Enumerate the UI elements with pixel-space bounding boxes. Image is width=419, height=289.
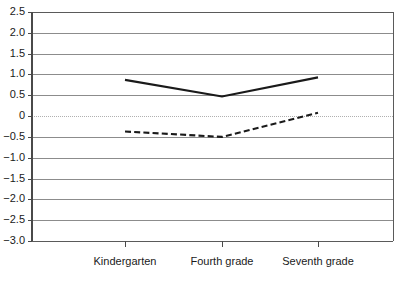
y-tick-label: 0.5 [10, 88, 25, 100]
y-tick-label: −0.5 [3, 130, 25, 142]
chart-container: 2.52.01.51.00.50−0.5−1.0−1.5−2.0−2.5−3.0… [0, 0, 419, 289]
y-tick-label: −2.5 [3, 213, 25, 225]
y-tick-label: 2.5 [10, 5, 25, 17]
y-tick-label: 2.0 [10, 26, 25, 38]
y-tick-label: 1.0 [10, 67, 25, 79]
x-tick-label-1: Fourth grade [191, 255, 254, 267]
y-tick-label: 1.5 [10, 47, 25, 59]
chart-background [0, 0, 419, 289]
line-chart: 2.52.01.51.00.50−0.5−1.0−1.5−2.0−2.5−3.0… [0, 0, 419, 289]
y-tick-label: −3.0 [3, 234, 25, 246]
x-tick-labels: KindergartenFourth gradeSeventh grade [94, 255, 354, 267]
y-tick-label: −1.0 [3, 151, 25, 163]
y-tick-label: 0 [19, 109, 25, 121]
y-tick-label: −2.0 [3, 192, 25, 204]
y-tick-label: −1.5 [3, 172, 25, 184]
x-tick-label-0: Kindergarten [94, 255, 157, 267]
x-tick-label-2: Seventh grade [282, 255, 354, 267]
